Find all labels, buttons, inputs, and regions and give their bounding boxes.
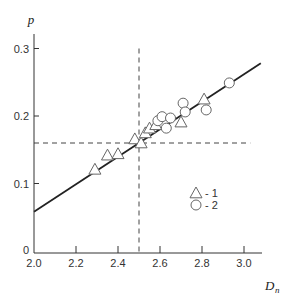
legend-circle-icon — [191, 200, 201, 210]
x-tick-label: 2.2 — [68, 257, 83, 269]
x-tick-label: 2.6 — [152, 257, 167, 269]
circle-marker — [161, 123, 171, 133]
y-tick-label: 0 — [23, 244, 29, 256]
circle-marker — [180, 107, 190, 117]
x-tick-label: 2.4 — [110, 257, 125, 269]
x-tick-label: 2.8 — [194, 257, 209, 269]
axes: 2.02.22.42.62.83.000.10.20.3 — [14, 34, 262, 269]
data-points — [89, 78, 234, 174]
y-axis-title: p — [27, 12, 35, 27]
circle-marker — [224, 78, 234, 88]
x-tick-label: 2.0 — [26, 257, 41, 269]
y-tick-label: 0.3 — [14, 43, 29, 55]
x-tick-label: 3.0 — [236, 257, 251, 269]
y-tick-label: 0.2 — [14, 110, 29, 122]
scatter-chart: 2.02.22.42.62.83.000.10.20.3 - 1- 2 pDn — [0, 0, 291, 303]
circle-marker — [201, 105, 211, 115]
x-axis-title: D — [264, 278, 275, 293]
x-axis-title-subscript: n — [275, 285, 280, 295]
legend-triangle-icon — [190, 187, 202, 198]
legend-label: - 1 — [205, 187, 218, 199]
reference-lines — [34, 49, 250, 254]
y-tick-label: 0.1 — [14, 178, 29, 190]
legend: - 1- 2 — [190, 187, 218, 211]
circle-marker — [166, 113, 176, 123]
legend-label: - 2 — [205, 199, 218, 211]
